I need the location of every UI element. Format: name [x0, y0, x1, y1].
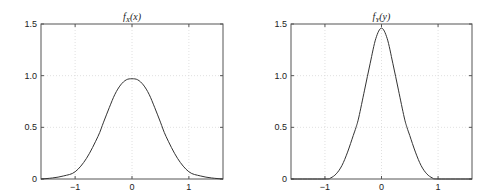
y-tick-label: 0	[282, 174, 287, 184]
plot-fx: −10100.51.01.5fX(x)	[24, 11, 223, 192]
x-tick-label: −1	[70, 182, 80, 192]
y-tick-label: 0.5	[24, 122, 37, 132]
y-tick-label: 1.5	[274, 19, 287, 29]
y-tick-label: 0.5	[274, 122, 287, 132]
axes-frame	[291, 24, 472, 179]
chart-figure: −10100.51.01.5fX(x) −10100.51.01.5fY(y)	[0, 0, 489, 192]
y-tick-label: 0	[32, 174, 37, 184]
x-tick-label: 1	[436, 182, 441, 192]
axes-frame	[41, 24, 223, 179]
x-tick-label: −1	[320, 182, 330, 192]
y-tick-label: 1.0	[24, 71, 37, 81]
x-tick-label: 1	[186, 182, 191, 192]
y-tick-label: 1.5	[24, 19, 37, 29]
plot-title: fY(y)	[373, 11, 391, 24]
plot-title: fX(x)	[123, 11, 142, 24]
y-tick-label: 1.0	[274, 71, 287, 81]
x-tick-label: 0	[129, 182, 134, 192]
plot-fy: −10100.51.01.5fY(y)	[274, 11, 472, 192]
x-tick-label: 0	[379, 182, 384, 192]
